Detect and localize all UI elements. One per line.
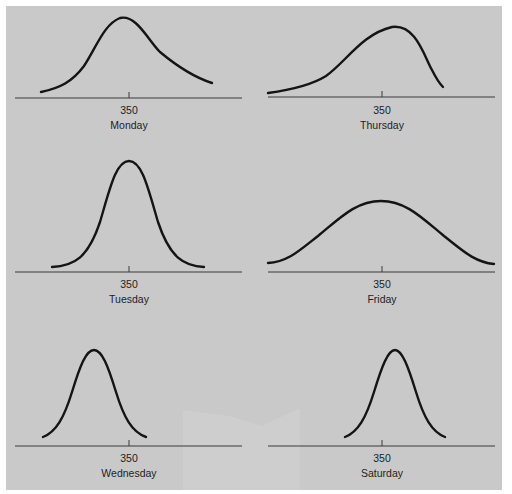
tick-label: 350 [120,452,138,464]
distribution-curve [345,350,445,437]
distribution-curve [41,18,212,92]
panel-saturday: 350 Saturday [268,350,495,479]
panel-tuesday: 350 Tuesday [15,161,242,305]
day-label: Friday [367,293,397,305]
distribution-curve [268,27,443,93]
tick-label: 350 [373,104,391,116]
tick-label: 350 [120,278,138,290]
tick-label: 350 [120,104,138,116]
panel-thursday: 350 Thursday [268,27,495,131]
day-label: Wednesday [101,467,157,479]
panel-friday: 350 Friday [268,201,495,305]
day-label: Thursday [360,119,405,131]
distribution-curve [52,161,204,267]
distribution-curve [268,201,494,264]
distribution-grid: 350 Monday 350 Thursday 350 Tuesday 350 … [0,0,512,494]
distribution-curve [43,350,146,437]
tick-label: 350 [373,278,391,290]
panel-monday: 350 Monday [15,18,242,131]
tick-label: 350 [373,452,391,464]
tape-artifact [183,408,300,490]
day-label: Saturday [361,467,404,479]
day-label: Monday [110,119,148,131]
day-label: Tuesday [109,293,150,305]
